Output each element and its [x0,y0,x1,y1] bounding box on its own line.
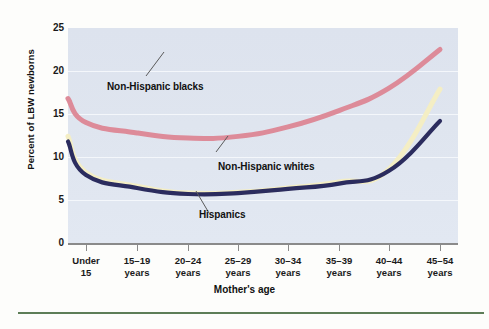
x-label-0: Under15 [59,255,113,278]
x-tick-3 [238,245,239,251]
x-label-2: 20–24years [161,255,215,278]
series-label-non-hispanic-blacks: Non-Hispanic blacks [107,81,203,92]
y-axis-title: Percent of LBW newborns [25,35,36,185]
x-label-4: 30–34years [261,255,315,278]
series-label-hispanics: Hispanics [199,209,245,220]
x-label-6: 40–44years [362,255,416,278]
lbw-newborns-line-chart: 25 20 15 10 5 0 Percent of LBW newborns … [0,0,489,329]
y-tick-5: 5 [40,195,64,205]
series-line-non-hispanic-blacks [68,50,440,139]
plot-area [68,28,458,243]
series-line-non-hispanic-whites [68,89,440,194]
x-label-5: 35–39years [312,255,366,278]
y-tick-25: 25 [40,23,64,33]
y-axis-tick-labels: 25 20 15 10 5 0 [36,0,64,329]
x-label-7: 45–54years [413,255,467,278]
x-axis-line [68,243,458,245]
y-tick-10: 10 [40,152,64,162]
bottom-divider-rule [18,312,484,314]
x-tick-5 [339,245,340,251]
x-tick-2 [188,245,189,251]
series-label-non-hispanic-whites: Non-Hispanic whites [218,161,314,172]
y-tick-20: 20 [40,66,64,76]
y-tick-0: 0 [40,238,64,248]
x-label-1: 15–19years [110,255,164,278]
x-tick-0 [86,245,87,251]
x-tick-7 [440,245,441,251]
x-axis-title: Mother's age [0,284,489,295]
series-canvas [68,28,458,243]
x-tick-6 [389,245,390,251]
x-label-3: 25–29years [211,255,265,278]
x-tick-4 [288,245,289,251]
x-tick-1 [137,245,138,251]
y-tick-15: 15 [40,109,64,119]
